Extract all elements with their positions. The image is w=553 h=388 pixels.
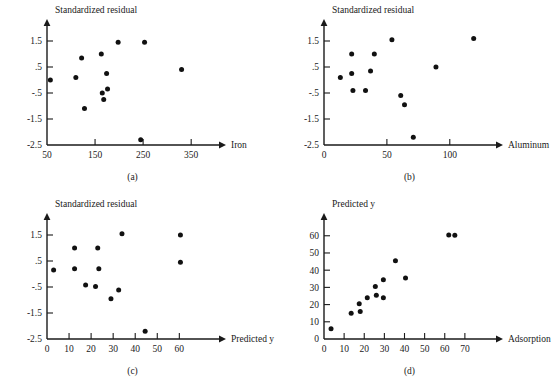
y-axis-arrow-c	[44, 213, 51, 220]
data-point	[368, 68, 373, 73]
data-point	[411, 135, 416, 140]
data-point	[119, 231, 124, 236]
y-tick-label-d-5: 50	[310, 248, 320, 258]
data-point	[374, 293, 379, 298]
y-tick-label-c-0: 1.5	[30, 230, 42, 240]
y-tick-label-c-4: -2.5	[27, 334, 42, 344]
y-tick-label-b-4: -2.5	[304, 140, 319, 150]
data-point	[82, 106, 87, 111]
data-point	[381, 295, 386, 300]
data-point	[357, 301, 362, 306]
data-point	[142, 40, 147, 45]
x-axis-arrow-a	[219, 142, 226, 149]
panel-b: Standardized residual1.5.5-.5-1.5-2.5050…	[277, 0, 553, 194]
data-point	[143, 329, 148, 334]
data-point	[403, 275, 408, 280]
panel-c: Standardized residual1.5.5-.5-1.5-2.5010…	[0, 194, 276, 388]
data-point	[349, 71, 354, 76]
y-axis-arrow-d	[321, 213, 328, 220]
x-axis-label-c: Predicted y	[231, 334, 274, 344]
data-point	[381, 277, 386, 282]
x-tick-label-d-4: 40	[400, 344, 410, 354]
data-point	[95, 246, 100, 251]
x-axis-label-b: Aluminum	[508, 140, 550, 150]
data-point	[363, 88, 368, 93]
y-tick-label-d-0: 0	[314, 334, 319, 344]
y-axis-label-c: Standardized residual	[55, 199, 137, 209]
data-point	[178, 260, 183, 265]
data-point	[72, 266, 77, 271]
x-axis-arrow-c	[219, 336, 226, 343]
x-tick-label-c-5: 50	[153, 344, 163, 354]
panel-caption-a: (a)	[127, 172, 138, 183]
data-point	[96, 266, 101, 271]
scatter-plot-a: Standardized residual1.5.5-.5-1.5-2.5501…	[0, 0, 276, 194]
data-point	[83, 282, 88, 287]
x-tick-label-c-2: 20	[86, 344, 96, 354]
data-point	[433, 65, 438, 70]
y-tick-label-d-4: 40	[310, 266, 320, 276]
y-tick-label-a-3: -1.5	[27, 114, 42, 124]
x-tick-label-b-2: 100	[443, 150, 458, 160]
x-axis-arrow-b	[496, 142, 503, 149]
y-tick-label-a-1: .5	[35, 62, 42, 72]
x-tick-label-c-3: 30	[108, 344, 118, 354]
x-tick-label-a-0: 50	[42, 150, 52, 160]
x-axis-label-a: Iron	[231, 140, 247, 150]
data-point	[349, 311, 354, 316]
y-tick-label-c-3: -1.5	[27, 308, 42, 318]
y-tick-label-d-6: 60	[310, 231, 320, 241]
x-tick-label-c-6: 60	[175, 344, 185, 354]
x-tick-label-d-3: 30	[380, 344, 390, 354]
data-point	[116, 288, 121, 293]
data-point	[452, 233, 457, 238]
data-point	[116, 40, 121, 45]
data-point	[179, 67, 184, 72]
data-point	[108, 296, 113, 301]
panel-d: Predicted y0102030405060010203040506070A…	[277, 194, 553, 388]
data-point	[101, 97, 106, 102]
data-point	[104, 71, 109, 76]
data-point	[51, 268, 56, 273]
y-tick-label-a-2: -.5	[32, 88, 43, 98]
x-tick-label-d-5: 50	[420, 344, 430, 354]
panel-a: Standardized residual1.5.5-.5-1.5-2.5501…	[0, 0, 276, 194]
x-tick-label-d-2: 20	[360, 344, 370, 354]
y-axis-arrow-b	[321, 19, 328, 26]
data-point	[178, 233, 183, 238]
data-point	[99, 52, 104, 57]
x-tick-label-c-1: 10	[64, 344, 74, 354]
figure-scatterplot-grid: Standardized residual1.5.5-.5-1.5-2.5501…	[0, 0, 553, 388]
data-point	[329, 326, 334, 331]
x-axis-label-d: Adsorption	[508, 334, 551, 344]
data-point	[373, 284, 378, 289]
x-tick-label-c-4: 40	[130, 344, 140, 354]
data-point	[73, 75, 78, 80]
y-tick-label-a-0: 1.5	[30, 36, 42, 46]
y-tick-label-d-2: 20	[310, 300, 320, 310]
panel-caption-c: (c)	[127, 366, 138, 377]
y-tick-label-b-0: 1.5	[307, 36, 319, 46]
panel-caption-b: (b)	[404, 172, 415, 183]
data-point	[402, 102, 407, 107]
y-tick-label-c-1: .5	[35, 256, 42, 266]
y-tick-label-c-2: -.5	[32, 282, 43, 292]
data-point	[398, 93, 403, 98]
x-tick-label-b-0: 0	[322, 150, 327, 160]
y-tick-label-b-3: -1.5	[304, 114, 319, 124]
x-tick-label-a-2: 250	[136, 150, 151, 160]
panel-caption-d: (d)	[404, 366, 415, 377]
data-point	[446, 232, 451, 237]
data-point	[365, 295, 370, 300]
data-point	[105, 87, 110, 92]
x-tick-label-d-7: 70	[460, 344, 470, 354]
x-tick-label-d-1: 10	[339, 344, 349, 354]
data-point	[471, 36, 476, 41]
data-point	[358, 309, 363, 314]
data-point	[372, 52, 377, 57]
data-point	[389, 37, 394, 42]
y-tick-label-b-1: .5	[312, 62, 319, 72]
data-point	[349, 52, 354, 57]
x-tick-label-b-1: 50	[382, 150, 392, 160]
scatter-plot-d: Predicted y0102030405060010203040506070A…	[277, 194, 553, 388]
